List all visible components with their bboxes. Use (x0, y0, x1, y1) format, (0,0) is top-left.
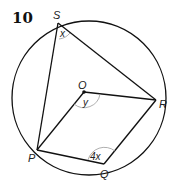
chord-SR (58, 23, 156, 100)
chord-SP (37, 23, 58, 150)
label-P: P (28, 152, 36, 164)
radius-OP (37, 92, 84, 150)
angle-label-x: x (59, 28, 66, 39)
label-Q: Q (100, 168, 109, 180)
chord-QR (104, 100, 156, 164)
angle-label-4x: 4x (90, 151, 102, 162)
circle-theorem-diagram: S R P Q O x y 4x (0, 0, 172, 185)
label-S: S (53, 9, 61, 21)
radius-OR (84, 92, 156, 100)
angle-label-y: y (82, 97, 89, 108)
label-R: R (159, 98, 167, 110)
label-O: O (78, 79, 87, 91)
